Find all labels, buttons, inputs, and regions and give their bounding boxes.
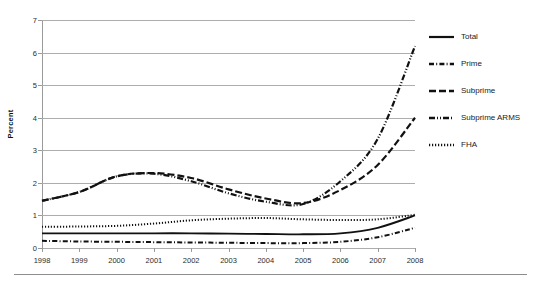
legend-item-fha[interactable]: FHA bbox=[428, 131, 540, 158]
legend-item-prime[interactable]: Prime bbox=[428, 50, 540, 77]
y-axis-tick-label: 2 bbox=[33, 178, 37, 187]
y-axis-tick-label: 5 bbox=[33, 81, 37, 90]
y-axis-tick-label: 1 bbox=[33, 211, 37, 220]
x-axis-tick-label: 1999 bbox=[71, 256, 88, 265]
x-axis-tick-mark bbox=[415, 248, 416, 252]
x-axis-tick-label: 2008 bbox=[407, 256, 424, 265]
legend-item-label: FHA bbox=[461, 141, 477, 149]
legend-item-label: Prime bbox=[461, 60, 482, 68]
x-axis-tick-mark bbox=[42, 248, 43, 252]
x-axis-tick-label: 2001 bbox=[146, 256, 163, 265]
x-axis-tick-label: 2006 bbox=[332, 256, 349, 265]
x-axis-tick-mark bbox=[340, 248, 341, 252]
line-chart: Percent 01234567 19981999200020012002200… bbox=[0, 0, 541, 281]
series-line-fha bbox=[42, 215, 415, 227]
y-axis-tick-label: 4 bbox=[33, 113, 37, 122]
y-axis-tick-label: 6 bbox=[33, 48, 37, 57]
y-axis-title: Percent bbox=[6, 110, 15, 139]
dash-dot-line-swatch bbox=[428, 58, 455, 70]
legend-item-label: Subprime bbox=[461, 87, 495, 95]
x-axis-tick-mark bbox=[378, 248, 379, 252]
series-lines-group bbox=[42, 20, 415, 248]
series-line-subprime-arms bbox=[42, 46, 415, 205]
legend-item-subprime-arms[interactable]: Subprime ARMS bbox=[428, 104, 540, 131]
dashed-line-swatch bbox=[428, 85, 455, 97]
legend-item-subprime[interactable]: Subprime bbox=[428, 77, 540, 104]
x-axis-tick-mark bbox=[303, 248, 304, 252]
y-axis-tick-label: 3 bbox=[33, 146, 37, 155]
footer-divider bbox=[14, 274, 527, 275]
series-line-prime bbox=[42, 228, 415, 243]
x-axis-tick-label: 1998 bbox=[34, 256, 51, 265]
dotted-line-swatch bbox=[428, 139, 455, 151]
x-axis-tick-mark bbox=[79, 248, 80, 252]
x-axis-tick-mark bbox=[191, 248, 192, 252]
y-axis-tick-label: 0 bbox=[33, 244, 37, 253]
dash-dot-dot-line-swatch bbox=[428, 112, 455, 124]
y-axis-tick-label: 7 bbox=[33, 16, 37, 25]
x-axis-tick-label: 2005 bbox=[295, 256, 312, 265]
x-axis-tick-label: 2002 bbox=[183, 256, 200, 265]
x-axis-tick-label: 2000 bbox=[108, 256, 125, 265]
x-axis-tick-mark bbox=[117, 248, 118, 252]
solid-line-swatch bbox=[428, 31, 455, 43]
legend-item-label: Total bbox=[461, 33, 478, 41]
x-axis-tick-mark bbox=[229, 248, 230, 252]
x-axis-tick-mark bbox=[266, 248, 267, 252]
chart-legend: TotalPrimeSubprimeSubprime ARMSFHA bbox=[428, 23, 540, 158]
legend-item-label: Subprime ARMS bbox=[461, 114, 520, 122]
x-axis-tick-label: 2004 bbox=[257, 256, 274, 265]
x-axis-tick-mark bbox=[154, 248, 155, 252]
legend-item-total[interactable]: Total bbox=[428, 23, 540, 50]
x-axis-tick-label: 2007 bbox=[369, 256, 386, 265]
x-axis-tick-label: 2003 bbox=[220, 256, 237, 265]
series-line-subprime bbox=[42, 118, 415, 204]
